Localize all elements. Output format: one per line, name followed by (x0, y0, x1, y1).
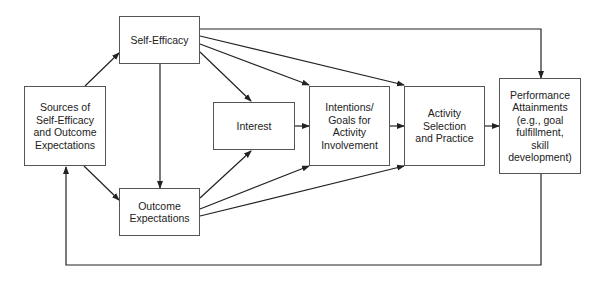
edge-self-efficacy-to-intentions (200, 44, 309, 85)
node-outcome-expectations: Outcome Expectations (119, 188, 200, 236)
node-performance-label: Performance Attainments (e.g., goal fulf… (508, 89, 572, 164)
edge-self-efficacy-to-performance (200, 29, 541, 78)
node-interest-label: Interest (236, 120, 271, 133)
node-self-efficacy-label: Self-Efficacy (130, 34, 188, 47)
node-self-efficacy: Self-Efficacy (119, 16, 200, 64)
edge-sources-to-outcome (84, 166, 119, 200)
edge-self-efficacy-to-interest (200, 52, 251, 101)
edge-outcome-to-interest (200, 151, 251, 198)
node-sources: Sources of Self-Efficacy and Outcome Exp… (24, 86, 106, 166)
node-outcome-expectations-label: Outcome Expectations (129, 200, 189, 225)
edge-outcome-to-activity (200, 166, 404, 216)
node-activity-selection: Activity Selection and Practice (404, 86, 485, 166)
node-performance: Performance Attainments (e.g., goal fulf… (499, 78, 581, 174)
edge-sources-to-self-efficacy (85, 53, 119, 86)
node-intentions-label: Intentions/ Goals for Activity Involveme… (321, 101, 378, 151)
node-activity-selection-label: Activity Selection and Practice (415, 107, 473, 145)
edge-self-efficacy-to-activity (200, 36, 404, 85)
node-intentions: Intentions/ Goals for Activity Involveme… (309, 86, 390, 166)
node-sources-label: Sources of Self-Efficacy and Outcome Exp… (33, 101, 96, 151)
node-interest: Interest (213, 102, 295, 150)
